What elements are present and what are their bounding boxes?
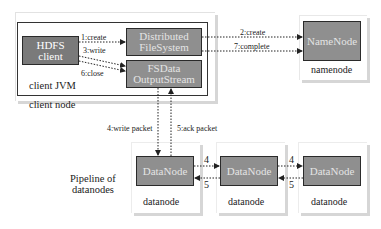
arrow-write [79,56,125,66]
label-create: 1:create [81,33,106,42]
label-nn-create: 2:create [240,28,265,37]
label-close: 6:close [81,69,104,78]
label-write: 3:write [83,46,106,55]
label-dn-ack-1: 5 [204,179,209,190]
label-complete: 7:complete [234,42,270,51]
label-write-packet: 4:write packet [107,124,153,133]
label-ack-packet: 5:ack packet [177,124,217,133]
label-dn-ack-2: 5 [289,179,294,190]
label-dn-forward-1: 4 [204,154,209,165]
arrows-layer [0,0,381,229]
label-dn-forward-2: 4 [289,154,294,165]
